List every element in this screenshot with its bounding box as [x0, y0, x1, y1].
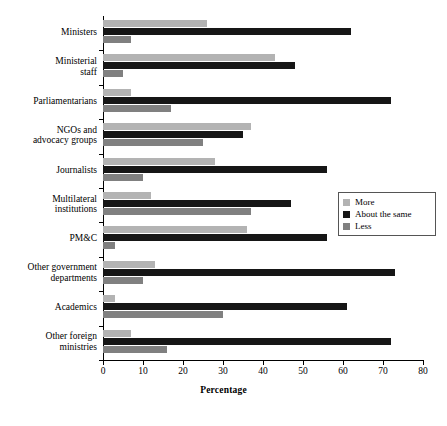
- bar-row: [103, 192, 151, 199]
- bar-row: [103, 123, 251, 130]
- bar-more: [103, 295, 115, 302]
- x-axis-tick: [103, 360, 104, 365]
- x-axis-tick-label: 80: [408, 366, 438, 376]
- legend-item[interactable]: Less: [343, 220, 431, 232]
- bar-row: [103, 269, 395, 276]
- bar-same: [103, 234, 327, 241]
- bar-row: [103, 131, 243, 138]
- category-label-line: Ministerial: [1, 56, 97, 67]
- bar-same: [103, 269, 395, 276]
- bar-group: Other governmentdepartments: [103, 257, 423, 291]
- category-label-line: advocacy groups: [1, 135, 97, 146]
- bar-less: [103, 242, 115, 249]
- x-axis-tick-label: 60: [328, 366, 358, 376]
- bar-same: [103, 166, 327, 173]
- x-axis-title: Percentage: [0, 385, 447, 395]
- y-axis-tick: [99, 326, 103, 327]
- bar-row: [103, 330, 131, 337]
- bar-more: [103, 54, 275, 61]
- category-label-line: staff: [1, 67, 97, 78]
- category-label-line: Multilateral: [1, 194, 97, 205]
- bar-same: [103, 62, 295, 69]
- x-axis-tick: [263, 360, 264, 365]
- bar-same: [103, 200, 291, 207]
- legend: MoreAbout the sameLess: [338, 192, 436, 236]
- y-axis-tick: [99, 188, 103, 189]
- x-axis-tick: [343, 360, 344, 365]
- bar-same: [103, 303, 347, 310]
- y-axis-tick: [99, 291, 103, 292]
- legend-swatch-icon: [343, 211, 350, 218]
- bar-more: [103, 123, 251, 130]
- x-axis-tick: [143, 360, 144, 365]
- category-label: NGOs andadvocacy groups: [1, 125, 97, 146]
- legend-label: Less: [355, 222, 372, 231]
- bar-more: [103, 89, 131, 96]
- bar-less: [103, 311, 223, 318]
- bar-more: [103, 192, 151, 199]
- bar-more: [103, 20, 207, 27]
- x-axis-tick: [183, 360, 184, 365]
- y-axis-tick: [99, 50, 103, 51]
- bar-row: [103, 277, 143, 284]
- bar-chart: MinistersMinisterialstaffParliamentarian…: [0, 0, 447, 426]
- category-label-line: PM&C: [1, 233, 97, 244]
- bar-row: [103, 242, 115, 249]
- category-label-line: Parliamentarians: [1, 96, 97, 107]
- x-axis-tick: [383, 360, 384, 365]
- category-label: Journalists: [1, 165, 97, 176]
- category-label-line: Ministers: [1, 27, 97, 38]
- bar-less: [103, 208, 251, 215]
- legend-item[interactable]: More: [343, 196, 431, 208]
- category-label: Ministers: [1, 27, 97, 38]
- bar-more: [103, 226, 247, 233]
- bar-less: [103, 36, 131, 43]
- bar-more: [103, 330, 131, 337]
- category-label-line: institutions: [1, 204, 97, 215]
- category-label-line: Journalists: [1, 165, 97, 176]
- bar-row: [103, 234, 327, 241]
- bar-less: [103, 346, 167, 353]
- bar-row: [103, 166, 327, 173]
- category-label-line: Academics: [1, 302, 97, 313]
- bar-same: [103, 28, 351, 35]
- bar-row: [103, 295, 115, 302]
- plot-area: MinistersMinisterialstaffParliamentarian…: [103, 16, 423, 360]
- bar-same: [103, 97, 391, 104]
- bar-row: [103, 36, 131, 43]
- x-axis-tick-label: 10: [128, 366, 158, 376]
- bar-row: [103, 338, 391, 345]
- bar-more: [103, 261, 155, 268]
- legend-swatch-icon: [343, 199, 350, 206]
- category-label: Other governmentdepartments: [1, 262, 97, 283]
- bar-row: [103, 208, 251, 215]
- bar-group: Ministerialstaff: [103, 50, 423, 84]
- bar-group: Parliamentarians: [103, 85, 423, 119]
- category-label: Academics: [1, 302, 97, 313]
- bar-row: [103, 105, 171, 112]
- category-label-line: NGOs and: [1, 125, 97, 136]
- bar-less: [103, 105, 171, 112]
- bar-group: Other foreignministries: [103, 326, 423, 360]
- bar-less: [103, 139, 203, 146]
- legend-label: About the same: [355, 210, 412, 219]
- bar-row: [103, 158, 215, 165]
- bar-row: [103, 54, 275, 61]
- bar-group: NGOs andadvocacy groups: [103, 119, 423, 153]
- x-axis-tick-label: 20: [168, 366, 198, 376]
- bar-row: [103, 62, 295, 69]
- category-label: Multilateralinstitutions: [1, 194, 97, 215]
- category-label: Ministerialstaff: [1, 56, 97, 77]
- bar-row: [103, 200, 291, 207]
- bar-row: [103, 261, 155, 268]
- y-axis-tick: [99, 85, 103, 86]
- y-axis-tick: [99, 119, 103, 120]
- bar-less: [103, 174, 143, 181]
- bar-row: [103, 346, 167, 353]
- y-axis-tick: [99, 222, 103, 223]
- bar-less: [103, 70, 123, 77]
- legend-item[interactable]: About the same: [343, 208, 431, 220]
- category-label-line: departments: [1, 273, 97, 284]
- legend-swatch-icon: [343, 223, 350, 230]
- y-axis-tick: [99, 360, 103, 361]
